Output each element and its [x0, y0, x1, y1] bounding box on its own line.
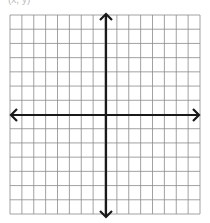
coordinate-plane: [0, 0, 210, 223]
axes: [11, 14, 199, 217]
